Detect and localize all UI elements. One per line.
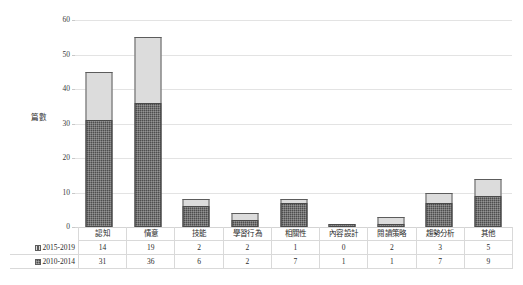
bar-segment-2015-2019[interactable] [86,72,113,120]
table-cell: 2 [223,241,271,255]
category-label: 學習行為 [233,229,262,238]
table-cell: 36 [127,255,175,269]
category-label: 相關性 [285,229,307,238]
table-cell: 2 [223,255,271,269]
table-row: 2010-2014 31366271179 [10,255,513,269]
y-tick-label-50: 50 [63,51,71,59]
bar-segment-2010-2014[interactable] [231,220,258,227]
bar-slot-8 [415,20,464,227]
table-cell: 7 [416,255,464,269]
legend-label-2010-2014: 2010-2014 [43,258,76,266]
plot-area: 6050403020100 [75,20,512,227]
bar-slot-3 [172,20,221,227]
legend-item-2010-2014[interactable]: 2010-2014 [10,255,79,269]
bar-stack[interactable] [86,72,113,227]
table-cell: 2 [175,241,223,255]
table-cell: 31 [79,255,127,269]
bar-segment-2015-2019[interactable] [426,193,453,203]
table-cell: 1 [368,255,416,269]
table-header-row: 認知情意技能學習行為相關性內容設計閱讀策略趨勢分析其他 [10,227,513,241]
y-tick-label-60: 60 [63,16,71,24]
table-header-cell-7: 閱讀策略 [368,227,416,241]
legend-swatch-light-icon [35,245,41,251]
table-row: 2015-2019 14192210235 [10,241,513,255]
bar-segment-2010-2014[interactable] [474,196,501,227]
legend-swatch-dark-icon [35,259,41,265]
table-corner-cell [10,227,79,241]
table-cell: 0 [320,241,368,255]
category-label: 技能 [192,229,207,238]
table-cell: 5 [464,241,512,255]
bar-segment-2010-2014[interactable] [86,120,113,227]
bar-slot-2 [124,20,173,227]
table-cell: 14 [79,241,127,255]
category-label: 情意 [144,229,159,238]
bar-stack[interactable] [183,199,210,227]
category-label: 認知 [95,229,110,238]
bar-stack[interactable] [231,213,258,227]
bar-slot-7 [366,20,415,227]
bar-segment-2015-2019[interactable] [231,213,258,220]
bar-segment-2015-2019[interactable] [474,179,501,196]
table-cell: 1 [271,241,319,255]
legend-item-2015-2019[interactable]: 2015-2019 [10,241,79,255]
bar-segment-2010-2014[interactable] [183,206,210,227]
y-tick-label-30: 30 [63,120,71,128]
category-label: 其他 [481,229,496,238]
y-tick-label-40: 40 [63,85,71,93]
table-cell: 19 [127,241,175,255]
category-label: 內容設計 [329,229,358,238]
bar-segment-2010-2014[interactable] [426,203,453,227]
table-cell: 1 [320,255,368,269]
table-header-cell-8: 趨勢分析 [416,227,464,241]
bar-series-container [75,20,512,227]
table-header-cell-5: 相關性 [271,227,319,241]
table-header-cell-4: 學習行為 [223,227,271,241]
table-header-cell-3: 技能 [175,227,223,241]
y-axis-title: 篇數 [22,114,56,122]
bar-slot-9 [464,20,513,227]
data-table-body: 認知情意技能學習行為相關性內容設計閱讀策略趨勢分析其他 2015-2019 14… [10,227,513,269]
table-cell: 3 [416,241,464,255]
y-tick-label-10: 10 [63,189,71,197]
bar-stack[interactable] [134,37,161,227]
category-label: 閱讀策略 [377,229,406,238]
bar-segment-2010-2014[interactable] [280,203,307,227]
bar-segment-2015-2019[interactable] [134,37,161,103]
table-cell: 6 [175,255,223,269]
table-cell: 7 [271,255,319,269]
data-table: 認知情意技能學習行為相關性內容設計閱讀策略趨勢分析其他 2015-2019 14… [10,227,513,269]
bar-slot-5 [269,20,318,227]
bar-segment-2010-2014[interactable] [134,103,161,227]
bar-slot-4 [221,20,270,227]
y-tick-label-20: 20 [63,154,71,162]
category-label: 趨勢分析 [426,229,455,238]
bar-segment-2015-2019[interactable] [377,217,404,224]
bar-slot-6 [318,20,367,227]
table-cell: 2 [368,241,416,255]
bar-segment-2015-2019[interactable] [183,199,210,206]
bar-stack[interactable] [426,193,453,227]
table-header-cell-1: 認知 [79,227,127,241]
table-header-cell-2: 情意 [127,227,175,241]
bar-slot-1 [75,20,124,227]
bar-stack[interactable] [377,217,404,227]
bar-stack[interactable] [280,199,307,227]
table-header-cell-9: 其他 [464,227,512,241]
table-cell: 9 [464,255,512,269]
bar-stack[interactable] [474,179,501,227]
legend-label-2015-2019: 2015-2019 [43,244,76,252]
table-header-cell-6: 內容設計 [320,227,368,241]
stacked-bar-chart: 篇數 6050403020100 認知情意技能學習行為相關性內容設計閱讀策略趨勢… [0,0,523,285]
